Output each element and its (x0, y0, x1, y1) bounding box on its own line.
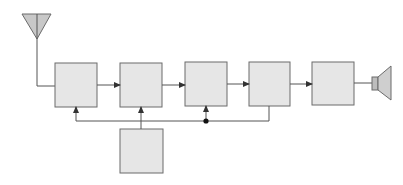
block-5 (312, 62, 354, 105)
antenna-feed-line (37, 39, 55, 86)
block-1 (55, 63, 97, 107)
junction-dot (203, 118, 208, 123)
block-4 (249, 62, 290, 106)
block-6 (120, 129, 163, 173)
feedback-bus (76, 106, 269, 121)
speaker-icon (372, 66, 391, 100)
block-2 (120, 63, 162, 107)
block-3 (185, 62, 227, 106)
receiver-block-diagram (0, 0, 403, 185)
antenna-icon (22, 14, 51, 39)
diagram-canvas (0, 0, 403, 185)
